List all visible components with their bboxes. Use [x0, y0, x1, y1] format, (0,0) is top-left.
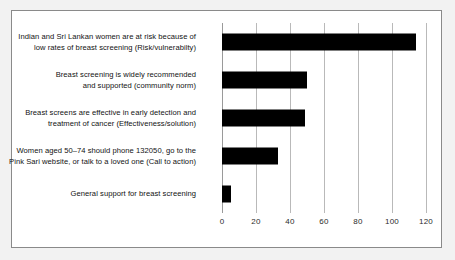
bar-row: Indian and Sri Lankan women are at risk … — [12, 23, 443, 61]
bar-row: Breast screening is widely recommendedan… — [12, 61, 443, 99]
x-tick-label: 60 — [319, 217, 328, 226]
bar-row: General support for breast screening — [12, 175, 443, 213]
x-tick-label: 80 — [353, 217, 362, 226]
bar — [222, 72, 307, 89]
bar-chart-plot: 020406080100120Indian and Sri Lankan wom… — [12, 11, 441, 247]
bar — [222, 34, 416, 51]
category-label: General support for breast screening — [6, 189, 196, 200]
figure-canvas: 020406080100120Indian and Sri Lankan wom… — [0, 0, 455, 260]
bar — [222, 186, 231, 203]
x-tick-label: 100 — [385, 217, 399, 226]
category-label: Breast screens are effective in early de… — [6, 108, 196, 129]
bar-row: Women aged 50–74 should phone 132050, go… — [12, 137, 443, 175]
category-label: Women aged 50–74 should phone 132050, go… — [6, 146, 196, 167]
x-tick-label: 120 — [419, 217, 433, 226]
category-label: Breast screening is widely recommendedan… — [6, 70, 196, 91]
x-tick-label: 20 — [251, 217, 260, 226]
bar — [222, 148, 278, 165]
x-tick-label: 0 — [220, 217, 225, 226]
bar — [222, 110, 305, 127]
category-label: Indian and Sri Lankan women are at risk … — [6, 32, 196, 53]
chart-frame: 020406080100120Indian and Sri Lankan wom… — [11, 10, 442, 248]
bar-row: Breast screens are effective in early de… — [12, 99, 443, 137]
x-tick-label: 40 — [285, 217, 294, 226]
